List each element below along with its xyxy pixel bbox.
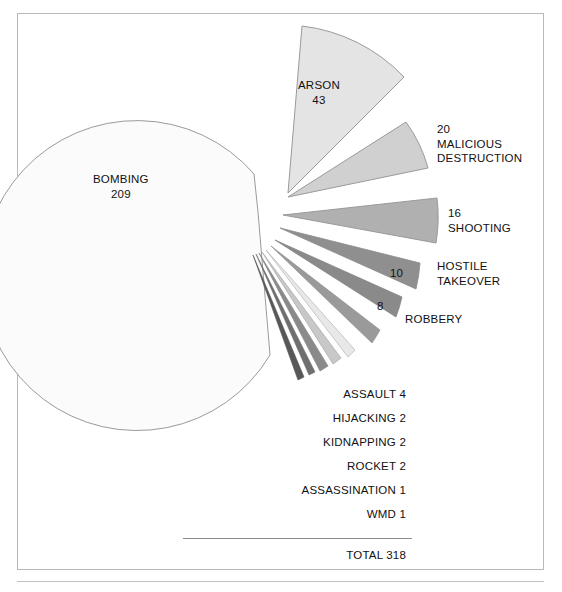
pie-value-robbery: 8 <box>377 299 383 314</box>
pie-label-hostile-takeover: HOSTILE TAKEOVER <box>437 259 500 288</box>
list-item: ASSASSINATION 1 <box>150 484 406 508</box>
list-item: HIJACKING 2 <box>150 412 406 436</box>
pie-label-malicious-destruction: 20 MALICIOUS DESTRUCTION <box>437 122 522 166</box>
pie-label-robbery: ROBBERY <box>405 312 462 327</box>
list-item: KIDNAPPING 2 <box>150 436 406 460</box>
pie-label-bombing: BOMBING 209 <box>93 172 149 201</box>
pie-label-arson: ARSON 43 <box>298 78 340 107</box>
list-item: ASSAULT 4 <box>150 388 406 412</box>
pie-value-hostile-takeover: 10 <box>390 266 403 281</box>
small-category-list: ASSAULT 4 HIJACKING 2 KIDNAPPING 2 ROCKE… <box>150 388 406 532</box>
pie-label-shooting: 16 SHOOTING <box>448 206 511 235</box>
footer-rule <box>17 581 544 582</box>
total-divider <box>183 538 412 539</box>
list-item: WMD 1 <box>150 508 406 532</box>
list-item: ROCKET 2 <box>150 460 406 484</box>
total-row: TOTAL 318 <box>150 549 406 562</box>
